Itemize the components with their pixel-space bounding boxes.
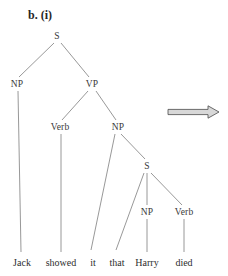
edge-s-np: [19, 43, 54, 77]
edge-np-it: [91, 134, 115, 250]
syntax-tree-figure: b. (i) SNPVPVerbNPSNPVerb Jackshoweditth…: [0, 0, 228, 276]
tree-edges: [18, 43, 184, 252]
tree-leaf-leaf-harry: Harry: [135, 257, 158, 268]
edge-np-s: [121, 134, 145, 159]
tree-leaf-leaf-jack: Jack: [13, 257, 31, 268]
tree-leaf-leaf-that: that: [110, 257, 125, 268]
tree-leaf-leaf-showed: showed: [46, 257, 77, 268]
tree-node-verb-matrix: Verb: [51, 122, 70, 132]
tree-leaf-leaf-it: it: [90, 257, 96, 268]
edge-npsubj-jack: [18, 91, 21, 252]
edge-s-vp: [61, 43, 89, 77]
tree-leaf-leaf-died: died: [175, 257, 192, 268]
tree-node-np-embedded: NP: [141, 207, 154, 217]
figure-label: b. (i): [28, 8, 52, 23]
edge-s-verbemb: [151, 173, 182, 205]
tree-node-verb-embedded: Verb: [175, 207, 194, 217]
tree-node-s-root: S: [54, 31, 59, 41]
edge-vp-np: [96, 91, 116, 120]
derivation-arrow-group: [168, 106, 219, 118]
tree-node-vp: VP: [86, 79, 99, 89]
derivation-arrow: [168, 106, 219, 118]
edge-vp-verb: [62, 91, 88, 120]
tree-node-np-object: NP: [112, 122, 125, 132]
tree-diagram-canvas: [0, 0, 228, 276]
tree-node-np-subject: NP: [11, 79, 24, 89]
tree-node-s-embedded: S: [144, 161, 149, 171]
